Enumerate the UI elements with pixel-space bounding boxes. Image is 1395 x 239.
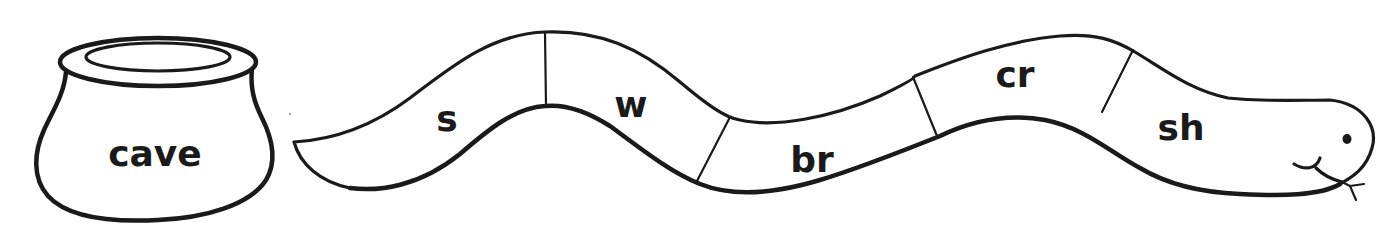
- segment-label-cr: cr: [995, 54, 1034, 95]
- segment-divider-1: [545, 33, 546, 106]
- worksheet-illustration: cave s w br cr sh: [0, 0, 1395, 239]
- pot: cave: [36, 38, 272, 221]
- pot-rim-inner: [86, 43, 230, 71]
- pot-label: cave: [108, 133, 202, 174]
- speck: [289, 113, 291, 115]
- segment-label-br: br: [790, 139, 834, 180]
- snake-eye-icon: [1343, 134, 1352, 144]
- segment-label-s: s: [436, 98, 457, 139]
- snake: s w br cr sh: [294, 32, 1373, 200]
- segment-label-sh: sh: [1157, 107, 1204, 148]
- segment-label-w: w: [614, 84, 647, 125]
- snake-tongue-icon: [1342, 182, 1364, 200]
